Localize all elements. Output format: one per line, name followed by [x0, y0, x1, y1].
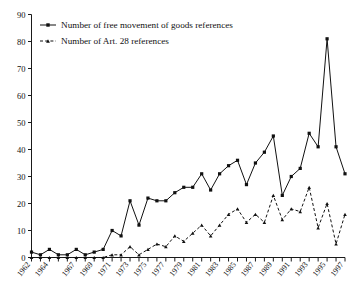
legend-label: Number of free movement of goods referen…	[61, 20, 233, 30]
data-point-square	[75, 248, 78, 251]
x-axis-tick-label-group: 1971	[96, 260, 113, 278]
data-point-square	[191, 186, 194, 189]
x-axis-tick-label: 1964	[33, 260, 50, 278]
x-axis-tick-label: 1987	[239, 260, 256, 278]
data-point-triangle	[272, 194, 276, 197]
data-point-triangle	[334, 242, 338, 245]
data-point-square	[245, 183, 248, 186]
x-axis-tick-label-group: 1995	[311, 260, 328, 278]
data-point-square	[290, 175, 293, 178]
x-axis-tick-label: 1977	[149, 260, 166, 278]
data-point-square	[48, 248, 51, 251]
x-axis-tick-label-group: 1962	[15, 260, 32, 278]
x-axis-tick-label-group: 1989	[257, 260, 274, 278]
data-point-square	[111, 229, 114, 232]
x-axis-tick-label-group: 1997	[329, 260, 346, 278]
data-point-square	[227, 164, 230, 167]
x-axis-tick-label-group: 1979	[167, 260, 184, 278]
data-point-triangle	[200, 224, 204, 227]
x-axis-tick-label: 1997	[329, 260, 346, 278]
data-point-square	[137, 224, 140, 227]
x-axis-tick-label-group: 1983	[203, 260, 220, 278]
x-axis-tick-label: 1973	[114, 260, 131, 278]
chart-container: 0102030405060708090196219641967196919711…	[0, 0, 352, 297]
x-axis-tick-label: 1979	[167, 260, 184, 278]
series-line	[32, 187, 346, 257]
x-axis-tick-label-group: 1991	[275, 260, 292, 278]
x-axis-tick-label: 1981	[185, 260, 202, 278]
legend-item-1: Number of Art. 28 references	[40, 36, 169, 46]
data-point-triangle	[316, 226, 320, 229]
data-point-square	[164, 199, 167, 202]
data-point-square	[173, 191, 176, 194]
data-point-square	[236, 159, 239, 162]
x-axis-tick-label: 1991	[275, 260, 292, 278]
x-axis-tick-label-group: 1977	[149, 260, 166, 278]
x-axis-tick-label: 1993	[293, 260, 310, 278]
data-point-square	[343, 172, 346, 175]
data-point-square	[317, 145, 320, 148]
x-axis-tick-label: 1985	[221, 260, 238, 278]
y-axis-tick-label: 10	[17, 226, 26, 236]
y-axis-tick-label: 50	[17, 118, 26, 128]
data-point-square	[128, 199, 131, 202]
x-axis-tick-label: 1967	[60, 260, 77, 278]
data-point-square	[272, 134, 275, 137]
x-axis-tick-label-group: 1973	[114, 260, 131, 278]
x-axis-tick-label: 1971	[96, 260, 113, 278]
y-axis-tick-label: 40	[17, 145, 26, 155]
data-point-square	[334, 145, 337, 148]
y-axis-tick-label: 60	[17, 91, 26, 101]
data-point-triangle	[307, 186, 311, 189]
y-axis-tick-label: 70	[17, 64, 26, 74]
data-point-triangle	[281, 218, 285, 221]
data-point-square	[200, 172, 203, 175]
data-point-square	[182, 186, 185, 189]
legend-item-0: Number of free movement of goods referen…	[40, 20, 233, 30]
y-axis-tick-label: 80	[17, 37, 26, 47]
x-axis-tick-label-group: 1967	[60, 260, 77, 278]
x-axis-tick-label: 1962	[15, 260, 32, 278]
legend-label: Number of Art. 28 references	[61, 36, 169, 46]
data-point-triangle	[218, 224, 222, 227]
data-point-square	[30, 251, 33, 254]
data-point-triangle	[343, 213, 347, 216]
x-axis-tick-label-group: 1993	[293, 260, 310, 278]
data-point-square	[281, 194, 284, 197]
x-axis-tick-label: 1989	[257, 260, 274, 278]
x-axis-tick-label-group: 1985	[221, 260, 238, 278]
data-point-square	[218, 172, 221, 175]
data-point-triangle	[298, 210, 302, 213]
x-axis-tick-label: 1983	[203, 260, 220, 278]
data-point-triangle	[263, 221, 267, 224]
data-point-square	[263, 151, 266, 154]
data-point-square	[119, 234, 122, 237]
data-point-triangle	[254, 213, 258, 216]
x-axis-tick-label-group: 1981	[185, 260, 202, 278]
data-point-triangle	[236, 207, 240, 210]
x-axis-tick-label-group: 1969	[78, 260, 95, 278]
data-point-square	[155, 199, 158, 202]
series-free-movement-goods	[30, 37, 347, 256]
x-axis-tick-label-group: 1987	[239, 260, 256, 278]
data-point-triangle	[173, 234, 177, 237]
x-axis-tick-label-group: 1975	[132, 260, 149, 278]
data-point-square	[146, 197, 149, 200]
data-point-square	[93, 251, 96, 254]
y-axis-tick-label: 90	[17, 10, 26, 20]
data-point-square	[325, 37, 328, 40]
legend: Number of free movement of goods referen…	[40, 20, 233, 46]
x-axis-tick-label: 1995	[311, 260, 328, 278]
x-axis-tick-label: 1975	[132, 260, 149, 278]
data-point-square	[308, 132, 311, 135]
data-point-square	[254, 161, 257, 164]
y-axis-tick-label: 20	[17, 199, 26, 209]
line-chart: 0102030405060708090196219641967196919711…	[0, 0, 352, 297]
data-point-square	[299, 167, 302, 170]
data-point-square	[209, 188, 212, 191]
data-point-square	[102, 248, 105, 251]
series-line	[32, 39, 346, 255]
data-point-triangle	[128, 245, 132, 248]
data-point-square	[46, 23, 49, 26]
y-axis-tick-label: 30	[17, 172, 26, 182]
